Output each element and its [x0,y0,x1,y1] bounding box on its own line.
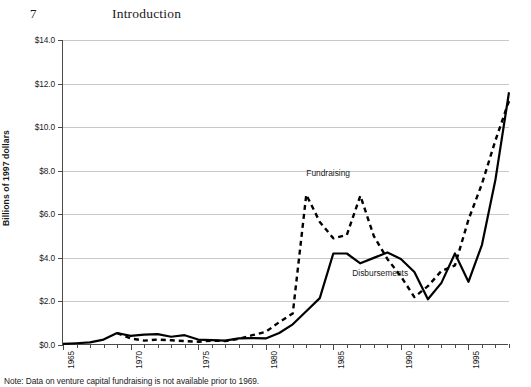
y-axis-tick-label: $10.0 [35,122,55,132]
plot-area: $0.0$2.0$4.0$6.0$8.0$10.0$12.0$14.019651… [62,40,508,345]
x-axis-tick-label: 1980 [270,351,279,369]
series-annotation-fundraising: Fundraising [306,168,350,178]
page-number: 7 [30,6,37,22]
x-axis-tick-label: 1965 [67,351,76,369]
series-annotation-disbursements: Disbursements [352,268,408,278]
y-axis-tick-label: $0.0 [39,340,55,350]
y-axis-tick-label: $6.0 [39,209,55,219]
x-axis-tick [509,344,510,348]
running-head: 7 Introduction [0,6,531,28]
page-root: 7 Introduction Billions of 1997 dollars … [0,0,531,387]
x-axis-tick-label: 1990 [405,351,414,369]
y-axis-tick-label: $14.0 [35,35,55,45]
series-layer [63,40,509,345]
series-line-disbursements [63,92,509,344]
x-axis-tick-label: 1995 [472,351,481,369]
x-axis-tick-label: 1985 [337,351,346,369]
y-axis-tick-label: $4.0 [39,253,55,263]
y-axis-tick-label: $2.0 [39,296,55,306]
x-axis-tick-label: 1975 [202,351,211,369]
running-title: Introduction [112,6,181,22]
x-axis-tick-label: 1970 [135,351,144,369]
y-axis-title: Billions of 1997 dollars [1,130,11,226]
y-axis-tick-label: $8.0 [39,166,55,176]
figure-note: Note: Data on venture capital fundraisin… [4,376,259,386]
figure: Billions of 1997 dollars $0.0$2.0$4.0$6.… [0,28,531,387]
y-axis-tick-label: $12.0 [35,79,55,89]
